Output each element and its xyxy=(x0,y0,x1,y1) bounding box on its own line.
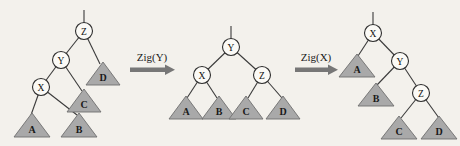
subtree-label-c-after: C xyxy=(395,126,402,137)
node-label-x-after: X xyxy=(370,29,377,39)
subtree-label-a-middle: A xyxy=(182,106,190,117)
subtree-label-b-after: B xyxy=(373,93,380,104)
subtree-label-d-after: D xyxy=(435,126,442,137)
subtree-label-b: B xyxy=(76,124,83,135)
subtree-label-d: D xyxy=(99,72,106,83)
node-label-y-middle: Y xyxy=(228,43,235,53)
arrow-shaft-zig-y xyxy=(130,68,165,73)
node-label-y: Y xyxy=(58,56,65,66)
subtree-label-c-middle: C xyxy=(242,106,249,117)
subtree-label-d-middle: D xyxy=(279,106,286,117)
operation-label-zig-y: Zig(Y) xyxy=(137,51,168,64)
node-label-x-middle: X xyxy=(199,71,206,81)
node-label-z-after: Z xyxy=(418,89,424,99)
subtree-label-c: C xyxy=(80,99,87,110)
operation-zig-y: Zig(Y) xyxy=(130,51,175,75)
operation-zig-x: Zig(X) xyxy=(295,51,338,75)
subtree-label-b-middle: B xyxy=(216,106,223,117)
operation-label-zig-x: Zig(X) xyxy=(301,51,332,64)
tree-before: D C A B Z Y X xyxy=(14,10,120,137)
arrow-head-zig-y xyxy=(165,65,175,76)
node-label-x: X xyxy=(38,83,45,93)
arrow-head-zig-x xyxy=(328,65,338,76)
arrow-shaft-zig-x xyxy=(295,68,328,73)
tree-after: A B C D X Y Z xyxy=(339,12,457,139)
subtree-label-a: A xyxy=(28,124,36,135)
subtree-label-a-after: A xyxy=(353,64,361,75)
node-label-z-middle: Z xyxy=(259,71,265,81)
node-label-z: Z xyxy=(81,27,87,37)
diagram-canvas: D C A B Z Y X Zig(Y) xyxy=(0,0,460,146)
splay-tree-zig-diagram: D C A B Z Y X Zig(Y) xyxy=(0,0,460,146)
tree-middle: A B C D Y X Z xyxy=(169,26,300,119)
node-label-y-after: Y xyxy=(397,57,404,67)
